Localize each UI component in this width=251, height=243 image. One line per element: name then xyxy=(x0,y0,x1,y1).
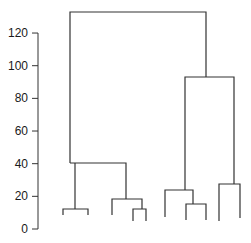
dendrogram-chart: 020406080100120 xyxy=(0,0,251,243)
y-tick-label: 0 xyxy=(21,222,28,236)
branch-right-cluster-merge xyxy=(185,77,234,190)
branch-left-cluster-merge xyxy=(70,163,126,199)
branch-subgroup-3-45 xyxy=(112,199,142,215)
branch-pair-1-2 xyxy=(63,209,88,215)
y-tick-label: 60 xyxy=(15,124,29,138)
y-tick-label: 20 xyxy=(15,189,29,203)
dendrogram-branches xyxy=(63,12,240,221)
branch-pair-4-5 xyxy=(133,209,146,221)
y-tick-label: 80 xyxy=(15,91,29,105)
y-axis: 020406080100120 xyxy=(8,26,38,236)
y-tick-label: 40 xyxy=(15,157,29,171)
y-tick-label: 120 xyxy=(8,26,28,40)
branch-pair-7-8 xyxy=(186,204,206,220)
y-tick-label: 100 xyxy=(8,59,28,73)
branch-pair-9-10 xyxy=(219,184,240,221)
